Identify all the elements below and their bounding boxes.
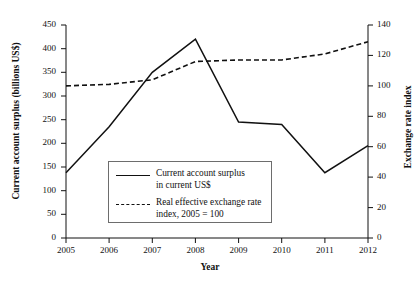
x-tick-2008: 2008	[175, 245, 215, 255]
y-left-tick-0: 0	[26, 232, 56, 242]
legend-label-current-account-surplus: Current account surplus in current US$	[156, 168, 245, 191]
plot-area	[0, 0, 420, 283]
legend-solid-line-swatch-icon	[116, 171, 150, 182]
legend-label-exchange-rate-index: Real effective exchange rate index, 2005…	[156, 197, 261, 220]
chart-legend: Current account surplus in current US$ R…	[108, 161, 272, 223]
y-left-tick-350: 350	[26, 66, 56, 76]
legend-dashed-line-swatch-icon	[116, 200, 150, 211]
y-axis-right-ticks	[368, 25, 373, 238]
chart-container: Current account surplus (billions US$) E…	[0, 0, 420, 283]
y-right-tick-80: 80	[377, 110, 407, 120]
y-right-tick-40: 40	[377, 171, 407, 181]
y-right-tick-140: 140	[377, 19, 407, 29]
x-tick-2011: 2011	[305, 245, 345, 255]
y-right-tick-100: 100	[377, 80, 407, 90]
y-right-tick-60: 60	[377, 141, 407, 151]
y-left-tick-100: 100	[26, 185, 56, 195]
legend-label-line2: index, 2005 = 100	[156, 209, 224, 219]
y-right-tick-120: 120	[377, 49, 407, 59]
x-axis-ticks	[66, 238, 368, 243]
y-left-tick-450: 450	[26, 19, 56, 29]
x-tick-2010: 2010	[262, 245, 302, 255]
x-tick-2006: 2006	[89, 245, 129, 255]
y-left-tick-400: 400	[26, 43, 56, 53]
x-tick-2009: 2009	[219, 245, 259, 255]
y-axis-left-ticks	[61, 25, 66, 238]
series-line-current-account-surplus	[66, 39, 368, 172]
legend-label-line1: Real effective exchange rate	[156, 197, 261, 207]
y-left-tick-200: 200	[26, 137, 56, 147]
y-left-tick-50: 50	[26, 208, 56, 218]
x-tick-2007: 2007	[132, 245, 172, 255]
legend-item-current-account-surplus: Current account surplus in current US$	[116, 168, 265, 191]
y-left-tick-250: 250	[26, 114, 56, 124]
y-right-tick-0: 0	[377, 232, 407, 242]
legend-label-line1: Current account surplus	[156, 168, 245, 178]
y-left-tick-300: 300	[26, 90, 56, 100]
y-left-tick-150: 150	[26, 161, 56, 171]
y-right-tick-20: 20	[377, 202, 407, 212]
legend-item-exchange-rate-index: Real effective exchange rate index, 2005…	[116, 197, 265, 220]
legend-label-line2: in current US$	[156, 180, 211, 190]
x-tick-2005: 2005	[46, 245, 86, 255]
x-tick-2012: 2012	[348, 245, 388, 255]
